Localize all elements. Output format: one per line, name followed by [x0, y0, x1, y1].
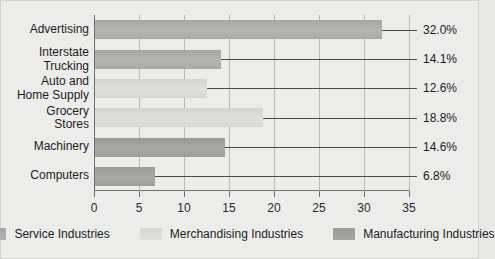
legend-label: Service Industries [14, 227, 109, 241]
x-axis-tick-label: 35 [402, 201, 415, 215]
x-axis-tick [409, 191, 410, 197]
x-axis-tick [274, 191, 275, 197]
legend-label: Manufacturing Industries [363, 227, 494, 241]
x-axis-tick-label: 20 [267, 201, 280, 215]
legend-label: Merchandising Industries [170, 227, 303, 241]
value-label-layer: 32.0%14.1%12.6%18.8%14.6%6.8% [1, 15, 480, 191]
x-axis-tick [319, 191, 320, 197]
legend-swatch [0, 228, 6, 240]
x-axis-tick [364, 191, 365, 197]
x-axis-tick [94, 191, 95, 197]
leader-line [225, 147, 417, 148]
leader-line [155, 176, 417, 177]
leader-line [221, 59, 417, 60]
x-axis-tick [139, 191, 140, 197]
x-axis-tick [229, 191, 230, 197]
value-label-computers: 6.8% [423, 169, 450, 183]
x-axis-tick-label: 25 [312, 201, 325, 215]
value-label-interstate-trucking: 14.1% [423, 52, 457, 66]
legend-item-merchandising-industries[interactable]: Merchandising Industries [140, 227, 303, 241]
legend-swatch [140, 228, 162, 240]
legend-item-service-industries[interactable]: Service Industries [0, 227, 110, 241]
x-axis-tick-label: 10 [177, 201, 190, 215]
value-label-auto-and-home-supply: 12.6% [423, 81, 457, 95]
chart-legend: Service IndustriesMerchandising Industri… [1, 223, 478, 245]
leader-line [263, 118, 417, 119]
x-axis-tick-label: 30 [357, 201, 370, 215]
leader-line [382, 30, 417, 31]
value-label-machinery: 14.6% [423, 140, 457, 154]
legend-swatch [333, 228, 355, 240]
leader-line [207, 88, 417, 89]
x-axis-tick [184, 191, 185, 197]
value-label-grocery-stores: 18.8% [423, 111, 457, 125]
x-axis-tick-label: 0 [91, 201, 98, 215]
x-axis-tick-label: 5 [136, 201, 143, 215]
x-axis-tick-label: 15 [222, 201, 235, 215]
value-label-advertising: 32.0% [423, 23, 457, 37]
legend-item-manufacturing-industries[interactable]: Manufacturing Industries [333, 227, 494, 241]
